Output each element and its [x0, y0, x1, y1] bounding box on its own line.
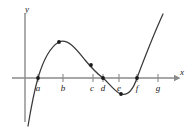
tick-label-f: f [136, 83, 140, 93]
tick-labels-group: a b c d e f g [36, 83, 161, 93]
tick-label-a: a [36, 83, 41, 93]
function-curve [28, 14, 163, 126]
tick-label-e: e [117, 83, 121, 93]
tick-label-c: c [90, 83, 94, 93]
point-a [36, 76, 40, 80]
point-f [135, 76, 139, 80]
function-graph-figure: a b c d e f g x y [0, 0, 192, 129]
tick-label-d: d [101, 83, 106, 93]
tick-label-g: g [156, 83, 161, 93]
graph-canvas: a b c d e f g x y [0, 0, 192, 129]
x-axis-label: x [179, 67, 184, 77]
point-d [101, 76, 105, 80]
tick-label-b: b [61, 83, 66, 93]
point-local-maximum [57, 40, 61, 44]
y-axis-label: y [24, 4, 29, 14]
point-c-inflection [89, 63, 93, 67]
